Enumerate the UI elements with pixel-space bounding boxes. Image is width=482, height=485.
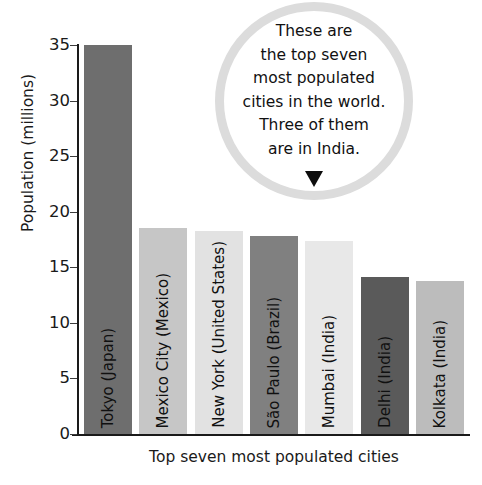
bar-chart-figure: Population (millions) 35302520151050 Tok…: [0, 0, 482, 485]
bar-label-wrap: Mumbai (India): [305, 315, 353, 428]
bar-label-wrap: Delhi (India): [361, 336, 409, 428]
callout-pointer-icon: [305, 171, 323, 187]
bar-label: São Paulo (Brazil): [265, 297, 283, 428]
callout-line-1: These are: [231, 20, 397, 44]
bar-label: New York (United States): [210, 241, 228, 428]
callout-text: These are the top seven most populated c…: [231, 20, 397, 161]
bar-label: Delhi (India): [376, 336, 394, 428]
callout-line-3: most populated: [231, 67, 397, 91]
bar-label: Kolkata (India): [431, 320, 449, 428]
callout-line-4: cities in the world.: [231, 91, 397, 115]
bar-label: Tokyo (Japan): [99, 328, 117, 428]
bar-label-wrap: São Paulo (Brazil): [250, 297, 298, 428]
bar-label-wrap: Mexico City (Mexico): [139, 273, 187, 428]
bar-new-york-united-states: New York (United States): [195, 231, 243, 434]
bar-label-wrap: Kolkata (India): [416, 320, 464, 428]
callout-line-5: Three of them: [231, 114, 397, 138]
callout-line-6: are in India.: [231, 138, 397, 162]
bar-label-wrap: Tokyo (Japan): [84, 328, 132, 428]
bar-label-wrap: New York (United States): [195, 241, 243, 428]
bar-mumbai-india: Mumbai (India): [305, 241, 353, 434]
callout-line-2: the top seven: [231, 44, 397, 68]
x-axis-title: Top seven most populated cities: [78, 448, 470, 466]
bar-kolkata-india: Kolkata (India): [416, 281, 464, 434]
bar-tokyo-japan: Tokyo (Japan): [84, 45, 132, 434]
bar-s-o-paulo-brazil: São Paulo (Brazil): [250, 236, 298, 434]
bar-mexico-city-mexico: Mexico City (Mexico): [139, 228, 187, 434]
bar-delhi-india: Delhi (India): [361, 277, 409, 434]
bar-label: Mexico City (Mexico): [154, 273, 172, 428]
bar-label: Mumbai (India): [320, 315, 338, 428]
callout-bubble: These are the top seven most populated c…: [215, 2, 413, 200]
